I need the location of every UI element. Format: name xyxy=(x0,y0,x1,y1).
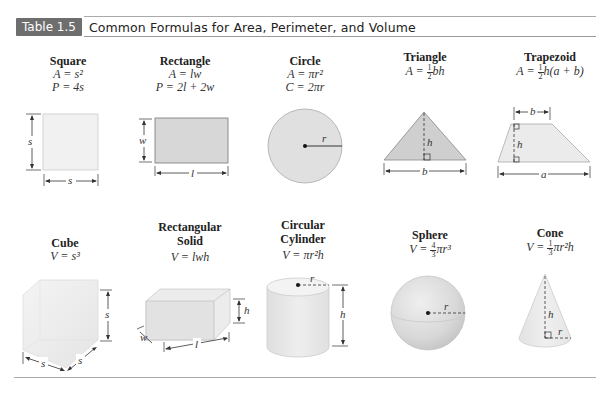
cone-height-label: h xyxy=(548,308,554,320)
cone-figure: h r xyxy=(0,0,606,394)
cone-radius-label: r xyxy=(558,325,563,337)
table-bottom-rule xyxy=(14,377,596,378)
